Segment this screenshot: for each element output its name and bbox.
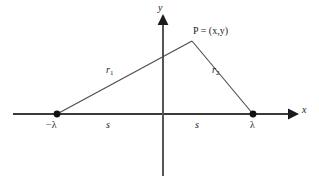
segment-r2-label: r2 (212, 65, 219, 77)
y-axis-arrowhead-icon (158, 14, 169, 25)
right-focus-dot (250, 111, 257, 118)
left-focus-label: −λ (46, 120, 57, 130)
segment-r1-label: r1 (106, 65, 113, 77)
segment-r2-subscript: 2 (216, 69, 220, 77)
y-axis-label: y (158, 3, 162, 13)
baseline-label-left-s: s (106, 120, 110, 130)
apex-point-label: P = (x,y) (193, 26, 228, 36)
figure-canvas (0, 0, 319, 185)
x-axis-label: x (302, 105, 306, 115)
baseline-label-right-s: s (195, 120, 199, 130)
triangle-legs (57, 41, 253, 114)
segment-r1-line (57, 41, 192, 114)
left-focus-dot (54, 111, 61, 118)
right-focus-label: λ (250, 120, 255, 130)
x-axis-arrowhead-icon (288, 109, 299, 120)
geometry-figure: y x P = (x,y) r1 r2 s s −λ λ (0, 0, 319, 185)
segment-r1-subscript: 1 (110, 69, 114, 77)
y-axis (158, 14, 169, 176)
segment-r2-line (192, 41, 253, 114)
